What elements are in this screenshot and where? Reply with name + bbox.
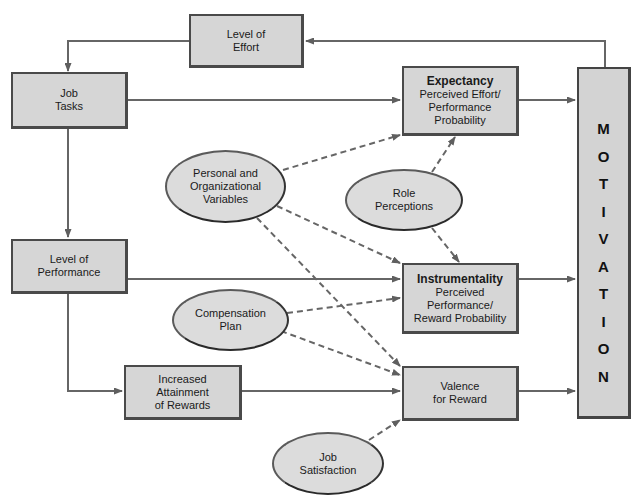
compensation-plan-line-1: Compensation [195, 307, 266, 320]
motivation-letter: A [598, 253, 609, 281]
role-perceptions-ellipse: Role Perceptions [345, 169, 463, 231]
dashed-compensation-to-instrumentality [287, 298, 400, 313]
valence-box: Valence for Reward [402, 366, 519, 421]
expectancy-line-1: Perceived Effort/ [419, 88, 500, 101]
expectancy-line-3: Probability [434, 114, 485, 127]
arrow-effort-to-jobtasks [68, 41, 189, 71]
increased-attainment-line-2: Attainment [156, 386, 209, 399]
instrumentality-line-2: Performance/ [427, 299, 493, 312]
motivation-model-diagram: Level of Effort Job Tasks Level of Perfo… [0, 0, 639, 501]
expectancy-box: Expectancy Perceived Effort/ Performance… [402, 66, 519, 136]
level-of-performance-box: Level of Performance [11, 239, 128, 294]
arrow-motivation-to-effort [306, 41, 605, 67]
personal-org-line-2: Organizational [190, 180, 261, 193]
dashed-personal-to-valence [257, 218, 400, 366]
job-satisfaction-ellipse: Job Satisfaction [272, 432, 384, 495]
motivation-letter: M [597, 115, 610, 143]
dashed-role-to-expectancy [432, 137, 455, 172]
instrumentality-line-3: Reward Probability [414, 312, 506, 325]
expectancy-line-2: Performance [429, 101, 492, 114]
motivation-letter: O [598, 143, 610, 171]
increased-attainment-box: Increased Attainment of Rewards [124, 365, 242, 420]
dashed-personal-to-expectancy [283, 135, 400, 170]
personal-org-line-3: Variables [203, 193, 248, 206]
valence-line-2: for Reward [433, 393, 487, 406]
level-of-effort-box: Level of Effort [189, 14, 304, 68]
motivation-letter: O [598, 335, 610, 363]
increased-attainment-line-3: of Rewards [155, 399, 211, 412]
expectancy-title: Expectancy [427, 74, 494, 88]
motivation-box: M O T I V A T I O N [577, 67, 631, 419]
job-satisfaction-line-2: Satisfaction [300, 464, 357, 477]
motivation-letter: V [598, 225, 608, 253]
compensation-plan-line-2: Plan [219, 320, 241, 333]
level-of-effort-line-2: Effort [233, 41, 259, 54]
personal-organizational-variables-ellipse: Personal and Organizational Variables [165, 150, 286, 223]
arrow-performance-to-attainment [68, 294, 122, 391]
motivation-letter: N [598, 363, 609, 391]
motivation-letter: T [599, 170, 608, 198]
instrumentality-box: Instrumentality Perceived Performance/ R… [402, 263, 519, 334]
job-tasks-box: Job Tasks [11, 72, 128, 129]
dashed-satisfaction-to-valence [369, 420, 400, 440]
valence-line-1: Valence [441, 380, 480, 393]
motivation-letter: I [601, 308, 605, 336]
compensation-plan-ellipse: Compensation Plan [172, 289, 289, 351]
level-of-effort-line-1: Level of [227, 28, 266, 41]
instrumentality-title: Instrumentality [417, 272, 503, 286]
dashed-role-to-instrumentality [432, 228, 459, 262]
motivation-letter: T [599, 280, 608, 308]
motivation-letter: I [601, 198, 605, 226]
job-satisfaction-line-1: Job [319, 451, 337, 464]
role-perceptions-line-2: Perceptions [375, 200, 433, 213]
dashed-compensation-to-valence [281, 331, 400, 375]
job-tasks-line-2: Tasks [55, 100, 83, 113]
increased-attainment-line-1: Increased [158, 373, 206, 386]
job-tasks-line-1: Job [60, 87, 78, 100]
role-perceptions-line-1: Role [393, 187, 416, 200]
level-of-performance-line-1: Level of [50, 253, 89, 266]
level-of-performance-line-2: Performance [38, 266, 101, 279]
instrumentality-line-1: Perceived [436, 286, 485, 299]
personal-org-line-1: Personal and [193, 167, 258, 180]
